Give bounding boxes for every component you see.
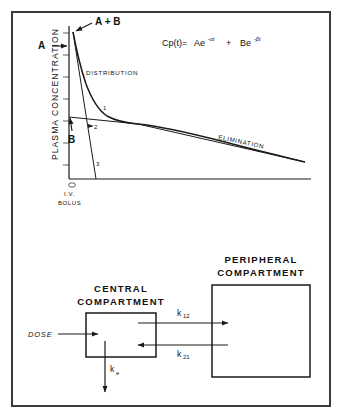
- central-compartment-title-line2: COMPARTMENT: [77, 296, 164, 307]
- equation-term2-base: Be: [240, 38, 251, 48]
- equation-term2-exponent: -βt: [254, 36, 261, 42]
- k12-label-base: k: [177, 308, 182, 318]
- equation-lhs: Cp(t)=: [162, 38, 187, 48]
- central-compartment-title-line1: CENTRAL: [94, 283, 148, 294]
- sum-intercept-label: A + B: [95, 16, 120, 27]
- peripheral-compartment-title-line1: PERIPHERAL: [224, 254, 297, 265]
- k12-label-subscript: 12: [183, 313, 190, 319]
- iv-bolus-label-line2: BOLUS: [58, 200, 81, 206]
- a-intercept-label: A: [38, 40, 45, 51]
- b-intercept-label: B: [68, 134, 75, 145]
- elimination-residual-line: [69, 117, 305, 162]
- y-axis-ticks: [63, 33, 69, 165]
- figure-canvas: PLASMA CONCENTRATION A + B A B DISTRIBUT…: [0, 0, 343, 419]
- peripheral-compartment-title-line2: COMPARTMENT: [217, 267, 304, 278]
- plot-axes: [69, 26, 311, 179]
- peripheral-compartment-box: [212, 285, 310, 377]
- k21-label-base: k: [177, 349, 182, 359]
- iv-bolus-marker: [69, 183, 76, 187]
- curve-number-3: 3: [96, 161, 100, 167]
- dose-label: DOSE: [28, 330, 53, 339]
- equation-term1-base: Ae: [194, 38, 205, 48]
- y-axis-label: PLASMA CONCENTRATION: [50, 28, 60, 160]
- plasma-concentration-curve: [73, 32, 305, 162]
- biexponential-equation: Cp(t)= Ae -αt + Be -βt: [162, 36, 261, 48]
- curve-number-2: 2: [94, 124, 98, 130]
- sum-intercept-arrow: [76, 23, 92, 31]
- distribution-residual-line: [73, 32, 96, 179]
- pharmacokinetics-figure: PLASMA CONCENTRATION A + B A B DISTRIBUT…: [0, 0, 343, 419]
- curve-number-1: 1: [103, 105, 107, 111]
- equation-plus: +: [226, 38, 231, 48]
- central-compartment-box: [86, 313, 156, 357]
- ke-label-subscript: e: [116, 370, 120, 376]
- distribution-label: DISTRIBUTION: [86, 69, 138, 76]
- equation-term1-exponent: -αt: [208, 36, 215, 42]
- ke-label-base: k: [110, 364, 115, 374]
- b-intercept-arrow: [70, 118, 72, 131]
- iv-bolus-label-line1: I.V.: [64, 191, 75, 197]
- k21-label-subscript: 21: [183, 354, 190, 360]
